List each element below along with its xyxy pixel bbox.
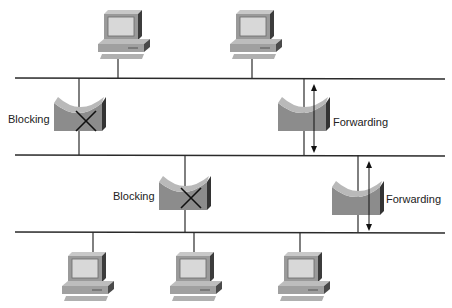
segment-2-line [15, 155, 445, 156]
pc-icon [62, 252, 114, 301]
segment-3-line [15, 232, 445, 233]
pc-icon [230, 10, 282, 59]
bridge-icon-top-left [54, 97, 106, 131]
bridge-state-label: Blocking [113, 190, 155, 202]
pc-icon [278, 252, 330, 301]
network-diagram [0, 0, 452, 308]
bridge-state-label: Forwarding [386, 193, 441, 205]
bridge-state-label: Forwarding [333, 116, 388, 128]
bridge-state-label: Blocking [8, 113, 50, 125]
pc-icon [170, 252, 222, 301]
pc-icon [98, 10, 150, 59]
